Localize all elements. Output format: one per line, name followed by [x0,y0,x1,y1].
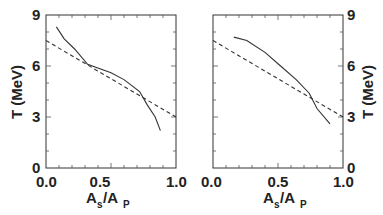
right-series [213,37,343,124]
right-ticks [213,15,343,168]
left-plot-frame [46,15,176,168]
right-panel: 9 6 3 0 0.0 0.5 1.0 T (MeV) A s /A P [201,6,376,210]
svg-text:/A: /A [280,189,295,206]
left-series [46,27,176,131]
right-xtick-05: 0.5 [268,173,289,190]
left-panel: 9 6 3 0 0.0 0.5 1.0 T (MeV) A s /A P [8,6,187,210]
solid-curve [56,27,160,131]
left-xtick-0: 0.0 [36,173,57,190]
right-ytick-3: 3 [347,108,355,125]
left-y-axis-label: T (MeV) [8,65,25,119]
left-xtick-05: 0.5 [90,173,111,190]
left-ytick-3: 3 [32,108,40,125]
left-ytick-6: 6 [32,57,40,74]
svg-text:/A: /A [103,189,118,206]
right-x-axis-label: A s /A P [263,189,307,210]
right-xtick-0: 0.0 [201,173,222,190]
right-xtick-1: 1.0 [333,173,354,190]
left-x-axis-label: A s /A P [86,189,130,210]
chart-canvas: 9 6 3 0 0.0 0.5 1.0 T (MeV) A s /A P 9 6… [0,0,383,215]
svg-text:A: A [86,189,97,206]
right-plot-frame [213,15,343,168]
left-ytick-9: 9 [32,6,40,23]
right-ytick-6: 6 [347,57,355,74]
svg-text:A: A [263,189,274,206]
right-y-axis-label: T (MeV) [359,65,376,119]
svg-text:P: P [123,199,130,210]
svg-text:P: P [300,199,307,210]
left-xtick-1: 1.0 [166,173,187,190]
left-ticks [46,15,176,168]
dashed-curve [46,41,176,118]
dashed-curve [213,41,343,118]
right-ytick-9: 9 [347,6,355,23]
